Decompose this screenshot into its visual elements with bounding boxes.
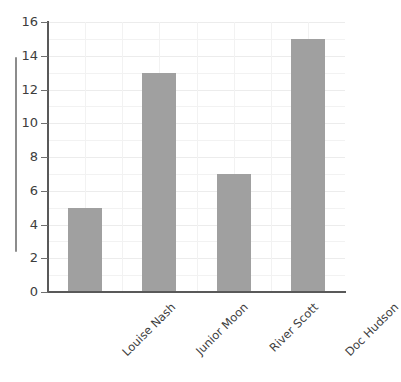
y-axis-tick [41, 123, 48, 124]
bar[interactable] [291, 39, 325, 292]
x-axis-tick-label: Doc Hudson [342, 300, 401, 359]
y-axis-tick-label: 12 [0, 83, 38, 96]
bar[interactable] [217, 174, 251, 292]
y-axis-tick-label: 6 [0, 184, 38, 197]
y-axis-tick [41, 191, 48, 192]
y-axis-tick [41, 22, 48, 23]
x-axis-tick-label: River Scott [266, 300, 321, 355]
chart-title-clip [0, 0, 362, 7]
y-axis-tick [41, 56, 48, 57]
y-axis-tick-label: 0 [0, 285, 38, 298]
gridline-vertical [271, 22, 272, 292]
y-axis-tick [41, 292, 48, 293]
gridline-vertical [122, 22, 123, 292]
y-axis-tick [41, 225, 48, 226]
x-axis-tick-label: Junior Moon [193, 300, 251, 358]
gridline-vertical [197, 22, 198, 292]
plot-area [48, 22, 345, 292]
x-axis-tick-label: Louise Nash [119, 300, 178, 359]
bar[interactable] [68, 208, 102, 292]
x-axis-spine [47, 291, 346, 293]
y-axis-tick-label: 4 [0, 218, 38, 231]
y-axis-tick [41, 157, 48, 158]
y-axis-tick [41, 90, 48, 91]
y-axis-tick [41, 258, 48, 259]
y-axis-tick-label: 16 [0, 15, 38, 28]
y-axis-tick-label: 2 [0, 251, 38, 264]
bar[interactable] [142, 73, 176, 292]
y-axis-tick-label: 14 [0, 49, 38, 62]
y-axis-tick-label: 8 [0, 150, 38, 163]
y-axis-tick-label: 10 [0, 116, 38, 129]
